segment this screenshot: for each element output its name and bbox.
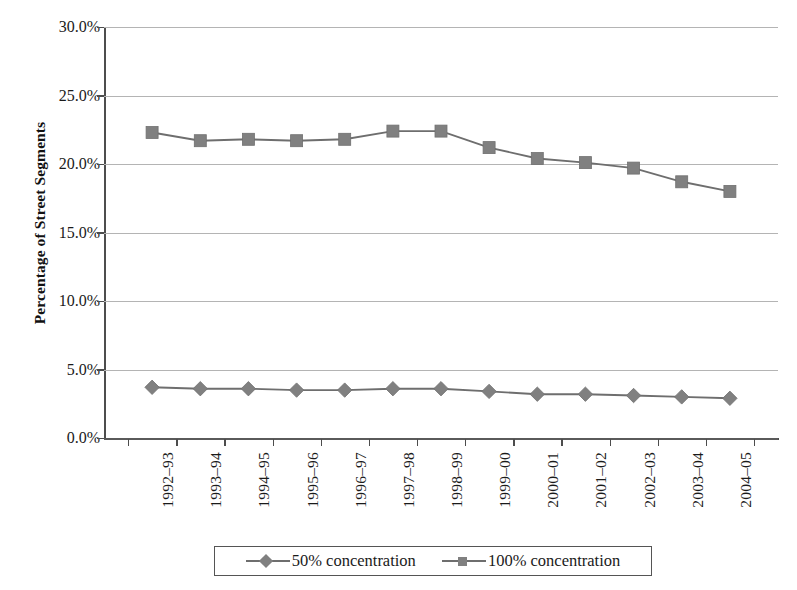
gridline (104, 96, 778, 97)
y-tick-mark (97, 301, 104, 303)
x-tick-mark (465, 439, 466, 446)
gridline (104, 301, 778, 302)
x-tick-label: 2000–01 (544, 452, 562, 538)
x-tick-mark (224, 439, 225, 446)
x-tick-label: 1996–97 (352, 452, 370, 538)
gridline (104, 27, 778, 28)
x-tick-label: 1997–98 (400, 452, 418, 538)
gridline (104, 233, 778, 234)
x-tick-label: 2004–05 (737, 452, 755, 538)
x-tick-label: 1995–96 (304, 452, 322, 538)
diamond-marker-icon (246, 553, 290, 569)
x-tick-mark (706, 439, 707, 446)
plot-area (104, 27, 778, 438)
legend-label-100-concentration: 100% concentration (486, 551, 620, 571)
x-tick-mark (369, 439, 370, 446)
x-tick-mark (128, 439, 129, 446)
legend-label-50-concentration: 50% concentration (290, 551, 416, 571)
gridline (104, 438, 778, 440)
y-tick-mark (97, 27, 104, 29)
x-tick-label: 2002–03 (641, 452, 659, 538)
x-tick-label: 2003–04 (689, 452, 707, 538)
gridline (104, 370, 778, 371)
x-tick-mark (561, 439, 562, 446)
x-tick-label: 1999–00 (496, 452, 514, 538)
square-marker-icon (442, 553, 486, 569)
x-tick-mark (176, 439, 177, 446)
y-tick-label: 30.0% (8, 18, 100, 36)
chart-figure: Percentage of Street Segments 30.0%25.0%… (0, 0, 797, 590)
x-tick-label: 1998–99 (448, 452, 466, 538)
x-tick-mark (513, 439, 514, 446)
chart-legend: 50% concentration 100% concentration (214, 546, 652, 576)
y-tick-mark (97, 369, 104, 371)
y-tick-mark (97, 232, 104, 234)
legend-item-50-concentration: 50% concentration (246, 551, 416, 571)
y-tick-label: 5.0% (8, 361, 100, 379)
x-tick-mark (321, 439, 322, 446)
y-tick-label: 25.0% (8, 87, 100, 105)
x-tick-label: 2001–02 (592, 452, 610, 538)
x-tick-mark (610, 439, 611, 446)
legend-item-100-concentration: 100% concentration (442, 551, 620, 571)
y-tick-label: 0.0% (8, 429, 100, 447)
y-tick-label: 20.0% (8, 155, 100, 173)
y-tick-label: 15.0% (8, 224, 100, 242)
y-tick-mark (97, 95, 104, 97)
gridline (104, 164, 778, 165)
y-tick-label: 10.0% (8, 292, 100, 310)
y-tick-mark (97, 438, 104, 440)
x-tick-label: 1992–93 (159, 452, 177, 538)
x-tick-label: 1994–95 (255, 452, 273, 538)
y-tick-mark (97, 164, 104, 166)
x-tick-mark (658, 439, 659, 446)
x-tick-mark (417, 439, 418, 446)
x-tick-mark (273, 439, 274, 446)
x-tick-mark (754, 439, 755, 446)
x-tick-label: 1993–94 (207, 452, 225, 538)
